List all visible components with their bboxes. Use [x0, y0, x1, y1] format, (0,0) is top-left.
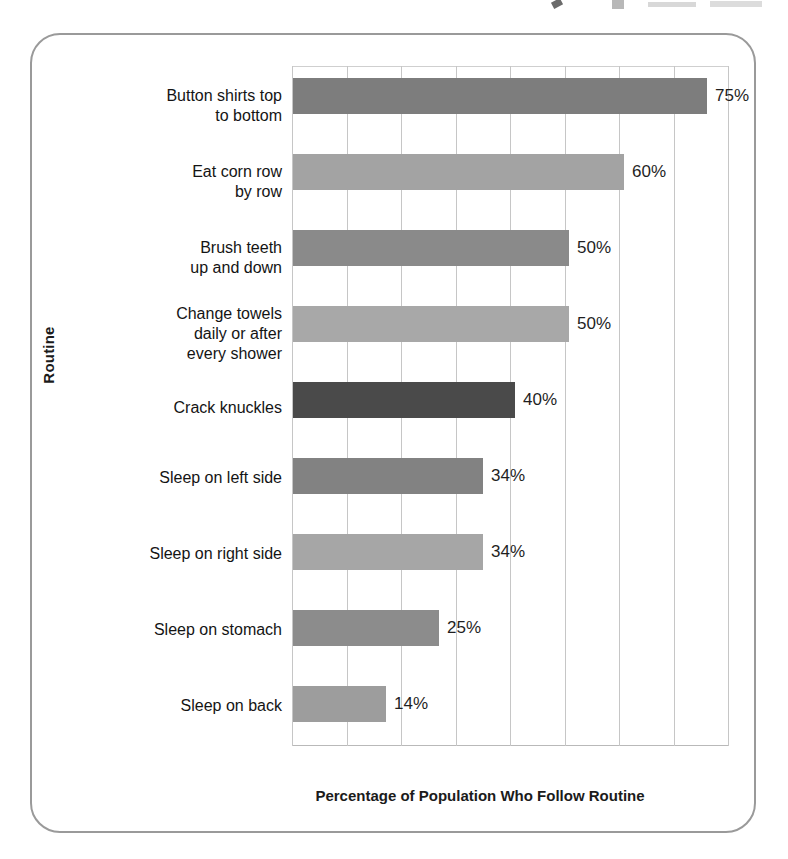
- category-label: Sleep on stomach: [52, 620, 282, 640]
- category-label-column: Button shirts top to bottomEat corn row …: [50, 66, 282, 746]
- bar-value-label: 14%: [394, 694, 428, 714]
- bar-row: 40%: [293, 382, 515, 418]
- gridline-8: [728, 66, 729, 746]
- category-label: Crack knuckles: [52, 398, 282, 418]
- bar-row: 50%: [293, 230, 569, 266]
- bar-value-label: 50%: [577, 238, 611, 258]
- bar: 60%: [293, 154, 624, 190]
- bar: 34%: [293, 534, 483, 570]
- bar: 34%: [293, 458, 483, 494]
- gridline-7: [674, 66, 675, 746]
- category-label: Eat corn row by row: [52, 162, 282, 202]
- bar-row: 75%: [293, 78, 707, 114]
- bar-value-label: 34%: [491, 542, 525, 562]
- bar-row: 14%: [293, 686, 386, 722]
- artifact-fragment: [648, 2, 696, 7]
- category-label: Change towels daily or after every showe…: [52, 304, 282, 364]
- bar-row: 60%: [293, 154, 624, 190]
- plot-area: 75%60%50%50%40%34%34%25%14%: [292, 66, 729, 746]
- bar-value-label: 40%: [523, 390, 557, 410]
- bar-value-label: 34%: [491, 466, 525, 486]
- category-label: Sleep on right side: [52, 544, 282, 564]
- bar-value-label: 75%: [715, 86, 749, 106]
- bar-value-label: 60%: [632, 162, 666, 182]
- bar: 25%: [293, 610, 439, 646]
- category-label: Sleep on back: [52, 696, 282, 716]
- bar: 75%: [293, 78, 707, 114]
- bar-row: 34%: [293, 534, 483, 570]
- bar-value-label: 25%: [447, 618, 481, 638]
- bar-value-label: 50%: [577, 314, 611, 334]
- bar: 50%: [293, 230, 569, 266]
- category-label: Sleep on left side: [52, 468, 282, 488]
- category-label: Brush teeth up and down: [52, 238, 282, 278]
- bar: 50%: [293, 306, 569, 342]
- bar-row: 50%: [293, 306, 569, 342]
- x-axis-title: Percentage of Population Who Follow Rout…: [230, 787, 730, 804]
- category-label: Button shirts top to bottom: [52, 86, 282, 126]
- bar: 14%: [293, 686, 386, 722]
- bar-row: 25%: [293, 610, 439, 646]
- bar: 40%: [293, 382, 515, 418]
- bar-row: 34%: [293, 458, 483, 494]
- artifact-fragment: [612, 0, 624, 9]
- scan-edge-artifact: [0, 0, 788, 14]
- artifact-fragment: [710, 1, 762, 7]
- artifact-fragment: [551, 0, 563, 9]
